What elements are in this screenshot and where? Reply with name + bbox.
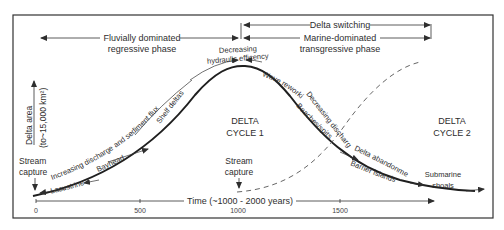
stream-capture-2-label: Stream: [225, 156, 252, 166]
delta-cycle-1-label-2: CYCLE 1: [226, 128, 264, 138]
delta-cycle-diagram: Fluvially dominated regressive phase Del…: [0, 0, 504, 230]
marine-phase-label: Marine-dominated: [304, 33, 377, 43]
stream-capture-1-label-2: capture: [19, 167, 48, 177]
x-tick-0: 0: [34, 207, 38, 214]
delta-cycle-2-label-2: CYCLE 2: [433, 128, 471, 138]
delta-cycle-1-label: DELTA: [231, 116, 259, 126]
fluvial-phase-label-2: regressive phase: [108, 44, 177, 54]
delta-switching-label: Delta switching: [310, 20, 371, 30]
submarine-label: Submarine: [425, 170, 461, 179]
delta-cycle-2-label: DELTA: [438, 116, 466, 126]
shelf-deltas-label: Shelf deltas: [154, 88, 185, 125]
decreasing-discharge-label: Decreasing discharge: [0, 0, 353, 149]
fluvial-phase-label: Fluvially dominated: [103, 33, 180, 43]
shoals-label: shoals: [432, 181, 454, 190]
hydraulic-efficiency-label: hydraulic efficency: [207, 51, 269, 65]
x-tick-500: 500: [134, 207, 146, 214]
y-axis-label-2: (to~15,000 km²): [38, 88, 48, 148]
delta-cycle-2-curve: [237, 62, 420, 192]
beaches-arrow: [340, 152, 358, 160]
stream-capture-1-label: Stream: [19, 156, 46, 166]
marine-phase-label-2: transgressive phase: [300, 44, 381, 54]
stream-capture-2-label-2: capture: [225, 167, 254, 177]
x-tick-1500: 1500: [332, 207, 348, 214]
y-axis-label: Delta area: [24, 106, 34, 145]
x-tick-1000: 1000: [230, 207, 246, 214]
x-axis-label: Time (~1000 - 2000 years): [187, 196, 293, 206]
